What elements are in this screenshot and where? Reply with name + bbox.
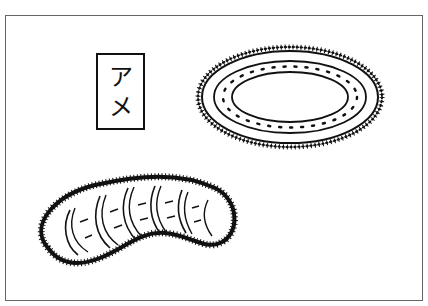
drawings [0,0,428,306]
kidney-creature-icon [41,177,234,263]
oval-ring-icon [198,47,382,147]
